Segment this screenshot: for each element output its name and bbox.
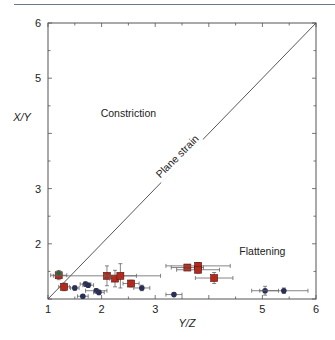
region-annotations: ConstrictionPlane strainFlattening xyxy=(101,107,286,257)
y-axis-title: X/Y xyxy=(12,111,31,123)
data-point xyxy=(77,293,88,299)
data-point xyxy=(195,273,233,284)
y-tick-label: 5 xyxy=(35,72,41,84)
annotation-constriction: Constriction xyxy=(101,107,157,119)
x-tick-label: 1 xyxy=(45,303,51,315)
y-tick-label: 6 xyxy=(35,17,41,29)
data-point xyxy=(71,285,80,291)
data-point xyxy=(166,292,182,298)
scatter-chart: 123562356Y/ZX/Y ConstrictionPlane strain… xyxy=(0,0,335,340)
x-tick-label: 3 xyxy=(152,303,158,315)
y-tick-label: 3 xyxy=(35,183,41,195)
x-axis-title: Y/Z xyxy=(178,317,196,329)
annotation-plane-strain: Plane strain xyxy=(153,132,201,180)
data-point xyxy=(56,270,61,276)
data-point xyxy=(123,280,139,287)
annotation-flattening: Flattening xyxy=(239,245,285,257)
x-tick-label: 6 xyxy=(313,303,319,315)
x-tick-label: 2 xyxy=(99,303,105,315)
data-points xyxy=(51,262,308,299)
data-point xyxy=(134,285,150,291)
y-tick-label: 2 xyxy=(35,238,41,250)
x-tick-label: 5 xyxy=(259,303,265,315)
data-point xyxy=(59,283,70,291)
